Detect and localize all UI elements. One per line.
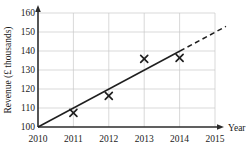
trend-line-dashed-extrapolation [180,26,226,51]
x-tick-label-2011: 2011 [64,134,83,144]
y-tick-label-140: 140 [21,46,36,56]
y-axis [35,5,41,127]
y-tick-label-100: 100 [21,122,36,132]
y-tick-label-150: 150 [21,27,36,37]
y-tick-label-130: 130 [21,65,36,75]
y-tick-label-120: 120 [21,84,36,94]
x-axis [38,124,224,130]
data-points [70,54,183,116]
x-tick-label-2014: 2014 [170,134,189,144]
revenue-scatter-chart: 160 150 140 130 120 110 100 2010 2011 20… [0,0,252,152]
x-axis-arrow [217,124,224,130]
x-tick-label-2010: 2010 [29,134,48,144]
x-tick-labels: 2010 2011 2012 2013 2014 2015 [29,134,225,144]
y-axis-title: Revenue (£ thousands) [3,26,14,113]
gridlines [38,13,215,127]
y-axis-arrow [35,5,41,12]
x-tick-label-2015: 2015 [206,134,225,144]
x-axis-title: Year [228,123,246,133]
chart-container: 160 150 140 130 120 110 100 2010 2011 20… [0,0,252,152]
y-tick-label-160: 160 [21,8,36,18]
x-tick-label-2013: 2013 [135,134,154,144]
y-tick-labels: 160 150 140 130 120 110 100 [21,8,36,132]
x-tick-label-2012: 2012 [99,134,118,144]
y-tick-label-110: 110 [21,103,35,113]
